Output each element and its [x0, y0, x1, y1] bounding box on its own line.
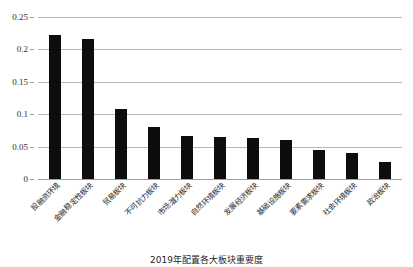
- bar-slot: [170, 17, 203, 179]
- bar-slot: [369, 17, 402, 179]
- bar: [280, 140, 292, 179]
- bar: [148, 127, 160, 179]
- y-tick-label: 0.15: [12, 77, 28, 87]
- x-tick-label: 基础设施板块: [256, 181, 293, 218]
- bar-slot: [137, 17, 170, 179]
- x-tick-label: 市场潜力板块: [156, 181, 193, 218]
- x-tick-label: 投融资环境: [29, 181, 61, 213]
- y-tick-mark: [30, 17, 34, 18]
- bar-series: [38, 17, 402, 179]
- bar-slot: [203, 17, 236, 179]
- y-tick-mark: [30, 114, 34, 115]
- plot-area: [38, 17, 402, 179]
- x-tick-label: 发展经济板块: [223, 181, 260, 218]
- x-tick-label: 要素需求板块: [289, 181, 326, 218]
- bar-slot: [336, 17, 369, 179]
- bar: [313, 150, 325, 179]
- x-tick-label: 社会环境板块: [322, 181, 359, 218]
- y-tick-label: 0.25: [12, 12, 28, 22]
- bar-slot: [303, 17, 336, 179]
- y-tick-mark: [30, 49, 34, 50]
- y-tick-label: 0.1: [17, 109, 28, 119]
- y-tick-mark: [30, 82, 34, 83]
- bar: [379, 162, 391, 179]
- bar-slot: [237, 17, 270, 179]
- bar: [346, 153, 358, 179]
- bar: [214, 137, 226, 179]
- bar-chart: 00.050.10.150.20.25 投融资环境金融稳定性板块贸易板块不可抗力…: [0, 0, 413, 267]
- y-tick-label: 0.2: [17, 44, 28, 54]
- gridline: [38, 179, 402, 180]
- bar-slot: [270, 17, 303, 179]
- bar: [247, 138, 259, 179]
- bar-slot: [38, 17, 71, 179]
- y-tick-label: 0.05: [12, 142, 28, 152]
- x-axis: 投融资环境金融稳定性板块贸易板块不可抗力板块市场潜力板块自然环境板块发展经济板块…: [38, 181, 402, 247]
- y-axis: 00.050.10.150.20.25: [0, 17, 34, 179]
- x-tick-label: 自然环境板块: [189, 181, 226, 218]
- bar-slot: [104, 17, 137, 179]
- bar: [181, 136, 193, 179]
- chart-caption: 2019年配置各大板块重要度: [0, 255, 413, 266]
- bar: [82, 39, 94, 179]
- bar: [115, 109, 127, 179]
- y-tick-mark: [30, 179, 34, 180]
- y-tick-mark: [30, 147, 34, 148]
- x-tick-label: 贸易板块: [100, 181, 127, 208]
- y-tick-label: 0: [24, 174, 29, 184]
- x-tick-label: 政治板块: [365, 181, 392, 208]
- x-tick-label: 不可抗力板块: [123, 181, 160, 218]
- bar: [49, 35, 61, 180]
- bar-slot: [71, 17, 104, 179]
